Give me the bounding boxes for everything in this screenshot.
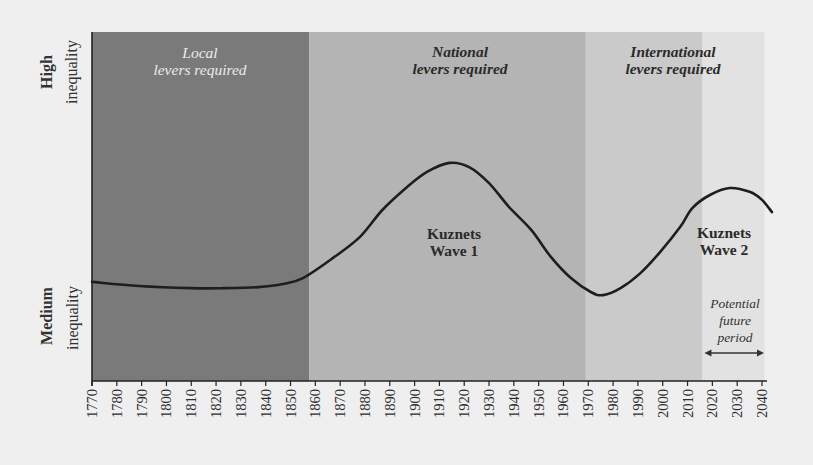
band-label-local-line1: Local (153, 44, 246, 61)
wave1-line1: Kuznets (427, 225, 481, 242)
band-label-international-line2: levers required (625, 60, 720, 77)
band-international (586, 32, 703, 381)
x-tick-label-1970: 1970 (581, 389, 595, 418)
x-tick-label-1910: 1910 (432, 389, 446, 418)
x-tick-label-1790: 1790 (135, 389, 149, 418)
band-label-national-line2: levers required (412, 60, 507, 77)
y-label-medium-inequality: inequality (64, 286, 82, 350)
x-tick-label-1770: 1770 (85, 389, 99, 418)
x-tick-label-1920: 1920 (457, 389, 471, 418)
band-label-local-line2: levers required (153, 61, 246, 78)
y-label-high-inequality: inequality (63, 40, 81, 104)
x-tick-label-1780: 1780 (110, 389, 124, 418)
future-line1: Potential (710, 295, 760, 312)
annotation-potential-future-period: Potential future period (710, 295, 760, 346)
band-label-national: National levers required (412, 43, 507, 77)
period-bands (92, 32, 764, 381)
band-label-national-line1: National (412, 43, 507, 60)
band-label-local: Local levers required (153, 44, 246, 78)
x-tick-label-1960: 1960 (556, 389, 570, 418)
x-tick-label-1850: 1850 (284, 389, 298, 418)
x-tick-label-1820: 1820 (209, 389, 223, 418)
x-tick-label-1840: 1840 (259, 389, 273, 418)
x-tick-label-1830: 1830 (234, 389, 248, 418)
future-line3: period (710, 329, 760, 346)
x-tick-label-2010: 2010 (681, 389, 695, 418)
x-tick-label-2020: 2020 (705, 389, 719, 418)
x-tick-label-1980: 1980 (606, 389, 620, 418)
y-label-medium: Medium (38, 287, 56, 345)
x-tick-label-2040: 2040 (755, 389, 769, 418)
x-tick-label-1900: 1900 (408, 389, 422, 418)
annotation-kuznets-wave-2: Kuznets Wave 2 (697, 224, 751, 258)
wave1-line2: Wave 1 (427, 242, 481, 259)
x-tick-label-2030: 2030 (730, 389, 744, 418)
x-tick-label-1880: 1880 (358, 389, 372, 418)
future-line2: future (710, 312, 760, 329)
x-tick-label-1810: 1810 (184, 389, 198, 418)
x-tick-label-1870: 1870 (333, 389, 347, 418)
x-tick-label-1990: 1990 (631, 389, 645, 418)
band-label-international-line1: International (625, 43, 720, 60)
y-label-high: High (38, 55, 56, 89)
x-tick-label-1940: 1940 (507, 389, 521, 418)
wave2-line2: Wave 2 (697, 241, 751, 258)
band-national (309, 32, 586, 381)
wave2-line1: Kuznets (697, 224, 751, 241)
x-tick-label-2000: 2000 (656, 389, 670, 418)
x-tick-label-1800: 1800 (159, 389, 173, 418)
x-tick-label-1890: 1890 (383, 389, 397, 418)
band-label-international: International levers required (625, 43, 720, 77)
x-tick-label-1950: 1950 (532, 389, 546, 418)
band-local (92, 32, 309, 381)
x-tick-label-1860: 1860 (308, 389, 322, 418)
annotation-kuznets-wave-1: Kuznets Wave 1 (427, 225, 481, 259)
x-tick-label-1930: 1930 (482, 389, 496, 418)
